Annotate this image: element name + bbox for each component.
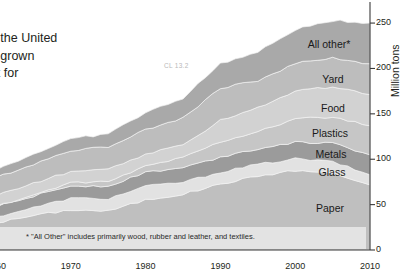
article-text-column: d. aste in the United s have grown e wor… (0, 6, 100, 100)
article-line: s have grown (0, 48, 100, 66)
y-tick-label: 150 (376, 108, 391, 118)
screenshot-root: CL 13.2 * "All Other" includes primarily… (0, 0, 414, 279)
band-label-metals: Metals (316, 148, 347, 160)
x-tick-label: 1970 (61, 261, 81, 271)
y-tick-label: 200 (376, 62, 391, 72)
band-label-yard: Yard (322, 73, 343, 85)
y-tick-label: 50 (376, 199, 386, 209)
article-body: aste in the United s have grown e worst … (0, 30, 100, 100)
article-line: aste in the United (0, 30, 100, 48)
band-label-food: Food (321, 102, 345, 114)
plate-watermark: CL 13.2 (164, 62, 189, 69)
chart-footnote: * "All Other" includes primarily wood, r… (26, 232, 255, 241)
article-line: e worst for (0, 65, 100, 83)
band-label-all-other: All other* (308, 38, 351, 50)
band-label-paper: Paper (316, 202, 344, 214)
y-tick-label: 0 (376, 244, 381, 254)
article-line: new (0, 83, 100, 101)
article-heading: d. (0, 6, 100, 20)
x-tick-label: 2000 (285, 261, 305, 271)
y-tick-label: 100 (376, 153, 391, 163)
x-tick-label: 1980 (136, 261, 156, 271)
band-label-glass: Glass (319, 166, 346, 178)
y-tick-label: 250 (376, 17, 391, 27)
band-label-plastics: Plastics (312, 127, 348, 139)
x-tick-label: 1960 (0, 261, 6, 271)
x-tick-label: 1990 (210, 261, 230, 271)
x-tick-label: 2010 (360, 261, 380, 271)
